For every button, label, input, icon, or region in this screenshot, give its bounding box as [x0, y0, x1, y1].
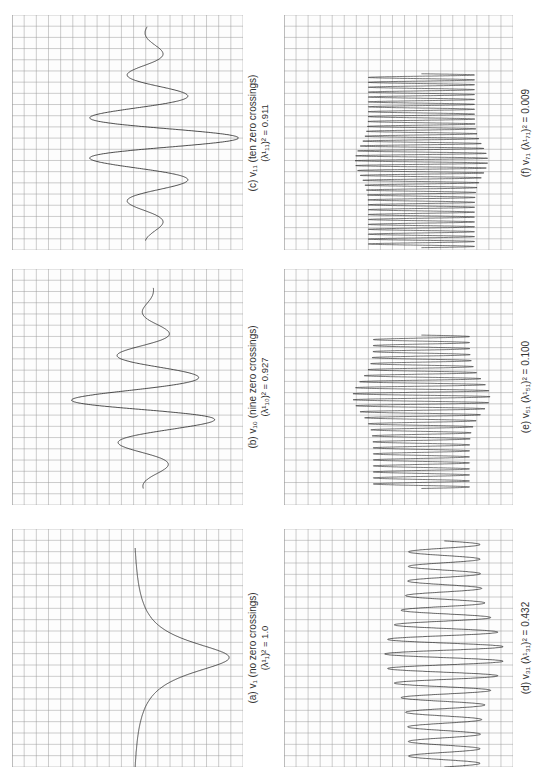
caption-c: (c) v₁₁ (ten zero crossings)(λ¹₁₁)² = 0.… [243, 15, 275, 250]
caption-f-title: (f) v₇₁ (λ¹₇₁)² = 0.009 [520, 88, 532, 176]
plot-b [12, 269, 243, 505]
caption-b-title: (b) v₁₀ (nine zero crossings) [247, 325, 259, 448]
plot-c-svg [12, 15, 243, 250]
caption-b: (b) v₁₀ (nine zero crossings)(λ¹₁₀)² = 0… [243, 269, 275, 505]
plot-c [12, 15, 243, 250]
plot-f [284, 15, 513, 250]
caption-c-title: (c) v₁₁ (ten zero crossings) [247, 74, 259, 191]
caption-e-title: (e) v₅₁ (λ¹₅₁)² = 0.100 [520, 341, 532, 433]
caption-b-sub: (λ¹₁₀)² = 0.927 [259, 325, 271, 448]
caption-f: (f) v₇₁ (λ¹₇₁)² = 0.009 [514, 15, 538, 250]
plot-e [284, 269, 513, 505]
caption-a-title: (a) v₁ (no zero crossings) [247, 592, 259, 703]
plot-a-svg [12, 529, 243, 767]
caption-e: (e) v₅₁ (λ¹₅₁)² = 0.100 [514, 269, 538, 505]
plot-e-svg [284, 269, 513, 505]
caption-c-sub: (λ¹₁₁)² = 0.911 [259, 74, 271, 191]
caption-a-sub: (λ¹₁)² = 1.0 [259, 592, 271, 703]
plot-b-svg [12, 269, 243, 505]
plot-a [12, 529, 243, 767]
plot-d-svg [284, 529, 513, 767]
caption-a: (a) v₁ (no zero crossings)(λ¹₁)² = 1.0 [243, 529, 275, 767]
plot-f-svg [284, 15, 513, 250]
caption-d: (d) v₃₁ (λ¹₃₁)² = 0.432 [514, 529, 538, 767]
caption-d-title: (d) v₃₁ (λ¹₃₁)² = 0.432 [520, 602, 532, 694]
plot-d [284, 529, 513, 767]
